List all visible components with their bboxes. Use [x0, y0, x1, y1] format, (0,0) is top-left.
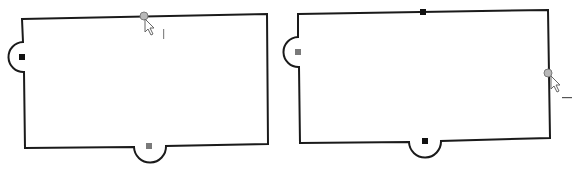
shape-right[interactable] — [283, 9, 572, 157]
text-caret-icon — [163, 29, 164, 39]
hover-connection-point[interactable] — [140, 12, 148, 20]
shape-left[interactable] — [8, 12, 268, 163]
cursor-arrow-icon — [145, 19, 154, 35]
connection-marker-black-top[interactable] — [420, 9, 426, 15]
diagram-canvas — [0, 0, 573, 172]
cursor-arrow-icon — [551, 76, 560, 92]
connection-marker-gray[interactable] — [146, 143, 152, 149]
shape-right-outline — [283, 10, 550, 157]
connection-marker-gray[interactable] — [295, 49, 301, 55]
shape-left-outline — [8, 14, 268, 163]
connection-marker-black-bottom[interactable] — [422, 138, 428, 144]
connection-marker-black[interactable] — [19, 54, 25, 60]
dash-mark — [562, 97, 572, 98]
